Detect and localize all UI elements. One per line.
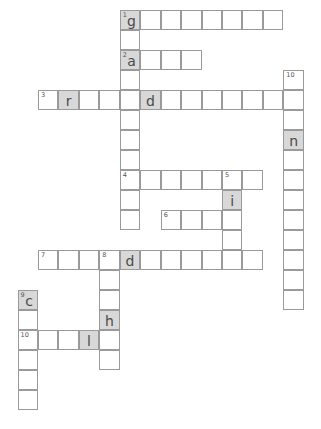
- grid-cell[interactable]: [120, 130, 140, 150]
- grid-cell[interactable]: [181, 10, 201, 30]
- grid-cell[interactable]: [18, 310, 38, 330]
- grid-cell[interactable]: [283, 150, 303, 170]
- grid-cell[interactable]: [120, 70, 140, 90]
- grid-cell[interactable]: d: [120, 250, 140, 270]
- grid-cell[interactable]: [99, 350, 119, 370]
- cell-letter: d: [121, 253, 139, 269]
- grid-cell[interactable]: [242, 250, 262, 270]
- grid-cell[interactable]: [161, 90, 181, 110]
- grid-cell[interactable]: [140, 10, 160, 30]
- grid-cell[interactable]: [140, 50, 160, 70]
- clue-number: 10: [21, 332, 29, 339]
- grid-cell[interactable]: [283, 110, 303, 130]
- grid-cell[interactable]: i: [222, 190, 242, 210]
- grid-cell[interactable]: [222, 10, 242, 30]
- clue-number: 10: [286, 72, 294, 79]
- grid-cell[interactable]: [99, 270, 119, 290]
- grid-cell[interactable]: [222, 230, 242, 250]
- clue-number: 7: [41, 252, 45, 259]
- grid-cell[interactable]: [99, 90, 119, 110]
- grid-cell[interactable]: [161, 170, 181, 190]
- grid-cell[interactable]: 2a: [120, 50, 140, 70]
- grid-cell[interactable]: [161, 250, 181, 270]
- grid-cell[interactable]: [120, 90, 140, 110]
- grid-cell[interactable]: [181, 250, 201, 270]
- clue-number: 8: [102, 252, 106, 259]
- grid-cell[interactable]: [283, 170, 303, 190]
- crossword-grid: 1g2a43rd10n5i678dh9c10l: [0, 0, 321, 429]
- cell-letter: l: [80, 333, 98, 349]
- grid-cell[interactable]: [79, 250, 99, 270]
- grid-cell[interactable]: [18, 390, 38, 410]
- grid-cell[interactable]: [181, 170, 201, 190]
- clue-number: 3: [41, 92, 45, 99]
- grid-cell[interactable]: [58, 250, 78, 270]
- grid-cell[interactable]: d: [140, 90, 160, 110]
- grid-cell[interactable]: 3: [38, 90, 58, 110]
- grid-cell[interactable]: 5: [222, 170, 242, 190]
- grid-cell[interactable]: [38, 330, 58, 350]
- grid-cell[interactable]: 4: [120, 170, 140, 190]
- grid-cell[interactable]: [242, 170, 262, 190]
- grid-cell[interactable]: 8: [99, 250, 119, 270]
- grid-cell[interactable]: 7: [38, 250, 58, 270]
- grid-cell[interactable]: [283, 90, 303, 110]
- grid-cell[interactable]: l: [79, 330, 99, 350]
- grid-cell[interactable]: [283, 230, 303, 250]
- grid-cell[interactable]: [120, 190, 140, 210]
- grid-cell[interactable]: h: [99, 310, 119, 330]
- grid-cell[interactable]: [161, 50, 181, 70]
- grid-cell[interactable]: 9c: [18, 290, 38, 310]
- grid-cell[interactable]: [99, 330, 119, 350]
- grid-cell[interactable]: [283, 190, 303, 210]
- grid-cell[interactable]: [242, 10, 262, 30]
- cell-letter: d: [141, 93, 159, 109]
- cell-letter: h: [100, 313, 118, 329]
- grid-cell[interactable]: [202, 250, 222, 270]
- grid-cell[interactable]: [283, 210, 303, 230]
- grid-cell[interactable]: 10: [18, 330, 38, 350]
- grid-cell[interactable]: [18, 350, 38, 370]
- grid-cell[interactable]: [263, 10, 283, 30]
- grid-cell[interactable]: [202, 170, 222, 190]
- grid-cell[interactable]: [99, 290, 119, 310]
- grid-cell[interactable]: [120, 110, 140, 130]
- grid-cell[interactable]: [120, 210, 140, 230]
- grid-cell[interactable]: [222, 90, 242, 110]
- grid-cell[interactable]: r: [58, 90, 78, 110]
- clue-number: 6: [164, 212, 168, 219]
- grid-cell[interactable]: [242, 90, 262, 110]
- grid-cell[interactable]: 1g: [120, 10, 140, 30]
- grid-cell[interactable]: [181, 50, 201, 70]
- grid-cell[interactable]: [222, 210, 242, 230]
- grid-cell[interactable]: [181, 90, 201, 110]
- grid-cell[interactable]: [161, 10, 181, 30]
- cell-letter: i: [223, 193, 241, 209]
- cell-letter: r: [59, 93, 77, 109]
- grid-cell[interactable]: 10: [283, 70, 303, 90]
- clue-number: 4: [123, 172, 127, 179]
- grid-cell[interactable]: [120, 30, 140, 50]
- grid-cell[interactable]: n: [283, 130, 303, 150]
- grid-cell[interactable]: [283, 270, 303, 290]
- grid-cell[interactable]: [283, 250, 303, 270]
- grid-cell[interactable]: [202, 210, 222, 230]
- grid-cell[interactable]: [283, 290, 303, 310]
- grid-cell[interactable]: [140, 250, 160, 270]
- cell-letter: n: [284, 133, 302, 149]
- grid-cell[interactable]: [202, 90, 222, 110]
- grid-cell[interactable]: [222, 250, 242, 270]
- grid-cell[interactable]: [263, 90, 283, 110]
- grid-cell[interactable]: [79, 90, 99, 110]
- grid-cell[interactable]: [120, 150, 140, 170]
- grid-cell[interactable]: [140, 170, 160, 190]
- clue-number: 5: [225, 172, 229, 179]
- cell-letter: c: [22, 293, 37, 309]
- grid-cell[interactable]: [18, 370, 38, 390]
- grid-cell[interactable]: [58, 330, 78, 350]
- cell-letter: g: [124, 13, 139, 29]
- grid-cell[interactable]: [202, 10, 222, 30]
- grid-cell[interactable]: [181, 210, 201, 230]
- cell-letter: a: [124, 53, 139, 69]
- grid-cell[interactable]: 6: [161, 210, 181, 230]
